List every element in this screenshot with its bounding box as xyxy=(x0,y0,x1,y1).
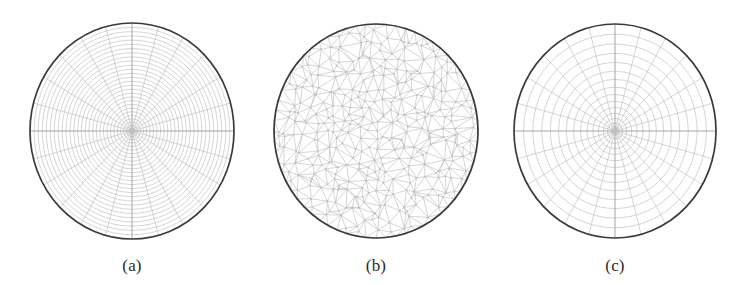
panel-a-center-node xyxy=(129,128,135,134)
panel-c xyxy=(507,17,723,245)
panel-b-triangle-edges xyxy=(274,24,478,238)
panel-a-mesh xyxy=(23,16,241,246)
panel-a xyxy=(23,16,241,246)
panel-a-caption: (a) xyxy=(92,256,172,276)
panel-c-caption: (c) xyxy=(575,256,655,276)
panel-b-caption: (b) xyxy=(336,256,416,276)
panel-b xyxy=(267,17,485,245)
panel-b-mesh xyxy=(267,17,485,245)
panel-c-mesh xyxy=(507,17,723,245)
figure-canvas: (a)(b)(c) xyxy=(0,0,749,285)
panel-c-center-node xyxy=(612,128,618,134)
